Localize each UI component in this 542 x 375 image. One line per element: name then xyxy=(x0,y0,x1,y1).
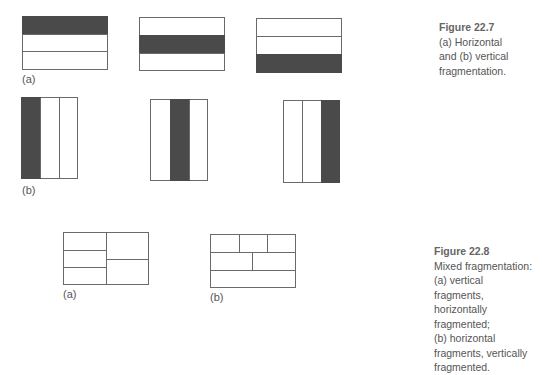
figure-number: Figure 22.8 xyxy=(434,244,542,259)
caption-line: horizontally xyxy=(434,302,542,317)
caption-line: fragments, vertically xyxy=(434,346,542,361)
fragment-divider xyxy=(23,34,107,35)
fig-22-7b-relation-1 xyxy=(21,97,78,179)
fragment-divider xyxy=(23,51,107,52)
fig-22-8b-relation xyxy=(210,234,296,288)
fragment-divider xyxy=(140,53,224,54)
fragment-divider xyxy=(64,267,106,268)
fig-22-7b-relation-3 xyxy=(283,100,340,183)
caption-line: Mixed fragmentation: xyxy=(434,259,542,274)
highlighted-fragment xyxy=(139,35,225,53)
part-label-b: (b) xyxy=(210,291,223,303)
fragment-divider xyxy=(59,98,60,178)
fragment-divider xyxy=(302,101,303,182)
caption-line: (b) horizontal xyxy=(434,331,542,346)
fig-22-7a-relation-1 xyxy=(22,16,108,70)
caption-line: fragmented; xyxy=(434,317,542,332)
caption-line: (a) vertical xyxy=(434,273,542,288)
fragment-divider xyxy=(252,252,253,270)
fragment-divider xyxy=(257,36,341,37)
fig-22-8a-relation xyxy=(63,232,149,285)
highlighted-fragment xyxy=(21,97,41,179)
caption-line: fragmented. xyxy=(434,360,542,375)
part-label-b: (b) xyxy=(22,184,35,196)
figure-caption-22-7: Figure 22.7 (a) Horizontal and (b) verti… xyxy=(439,20,542,78)
highlighted-fragment xyxy=(22,16,108,34)
fragment-divider xyxy=(189,100,190,180)
caption-line: fragmentation. xyxy=(439,64,542,79)
fragment-divider xyxy=(106,259,148,260)
fig-22-7a-relation-3 xyxy=(256,18,342,73)
fragment-divider xyxy=(211,252,295,253)
highlighted-fragment xyxy=(321,100,340,183)
highlighted-fragment xyxy=(256,54,342,73)
highlighted-fragment xyxy=(170,99,190,181)
fragment-divider xyxy=(267,235,268,252)
fragment-divider xyxy=(211,270,295,271)
caption-line: and (b) vertical xyxy=(439,49,542,64)
fragment-divider xyxy=(239,235,240,252)
fig-22-7a-relation-2 xyxy=(139,17,225,71)
figure-number: Figure 22.7 xyxy=(439,20,542,35)
part-label-a: (a) xyxy=(63,288,76,300)
fig-22-7b-relation-2 xyxy=(150,99,208,181)
caption-line: fragments, xyxy=(434,288,542,303)
caption-line: (a) Horizontal xyxy=(439,35,542,50)
figure-caption-22-8: Figure 22.8 Mixed fragmentation: (a) ver… xyxy=(434,244,542,375)
fragment-divider xyxy=(40,98,41,178)
fragment-divider xyxy=(64,250,106,251)
part-label-a: (a) xyxy=(22,73,35,85)
